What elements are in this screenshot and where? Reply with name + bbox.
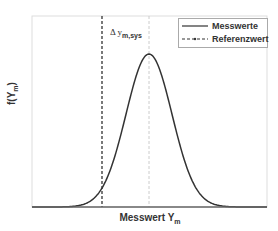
legend-label: Messwerte xyxy=(212,21,258,31)
x-axis-label: Messwert Ym xyxy=(0,212,278,225)
legend-item-referenzwert: Referenzwert xyxy=(182,33,269,45)
systematic-deviation-annotation: Δ ym,sys xyxy=(110,27,142,39)
legend-label: Referenzwert xyxy=(212,34,269,44)
y-axis-label-sub: m xyxy=(12,85,19,91)
annotation-sub: m,sys xyxy=(122,32,142,39)
y-axis-label-close: ) xyxy=(6,82,17,85)
annotation-main: Δ y xyxy=(110,27,122,37)
x-axis-label-sub: m xyxy=(174,218,180,225)
legend-item-messwerte: Messwerte xyxy=(182,20,258,32)
x-axis-label-main: Messwert Y xyxy=(119,212,174,223)
chart-legend: Messwerte Referenzwert xyxy=(178,18,268,48)
y-axis-label: f(Ym) xyxy=(6,75,20,105)
dashed-line-icon xyxy=(182,36,208,42)
y-axis-label-main: f(Y xyxy=(6,92,17,105)
solid-line-icon xyxy=(182,23,208,29)
